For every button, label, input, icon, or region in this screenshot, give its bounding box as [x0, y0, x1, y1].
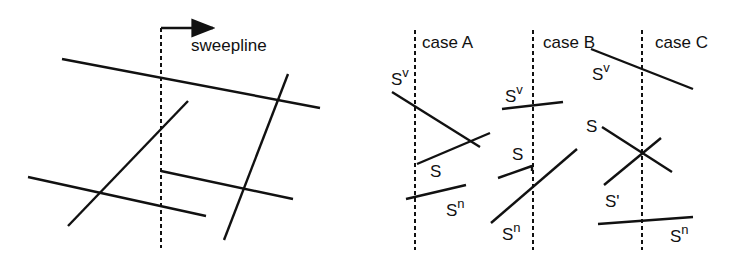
- sweepline-label: sweepline: [191, 37, 267, 54]
- segment-4: [28, 177, 206, 216]
- sweepline-overview-panel: [28, 28, 320, 248]
- case-c-sv-label: Sv: [592, 62, 610, 83]
- case-c-sn-label: Sn: [670, 224, 689, 245]
- case-b-segment-sn: [491, 149, 577, 223]
- case-c-s-label: S: [586, 118, 597, 135]
- case-b-sn-label: Sn: [502, 222, 521, 243]
- case-a-segment-sv: [392, 92, 480, 147]
- case-c-segment-s-prime: [604, 138, 661, 185]
- case-b-segment-s: [498, 166, 532, 178]
- case-b-sv-label: Sv: [505, 84, 523, 105]
- case-c-s-prime-label: S': [605, 193, 620, 210]
- case-a-sv-label: Sv: [391, 67, 409, 88]
- case-a-segment-s: [417, 133, 490, 164]
- case-c-segment-sn: [598, 217, 693, 224]
- case-b-s-label: S: [512, 146, 523, 163]
- segment-5: [161, 171, 293, 199]
- segment-1: [62, 59, 320, 108]
- case-a-s-label: S: [430, 163, 441, 180]
- case-c-title: case C: [655, 34, 708, 51]
- case-c-segment-s: [602, 127, 672, 172]
- sweepline-cases-panel: [392, 30, 693, 250]
- case-a-sn-label: Sn: [446, 198, 465, 219]
- diagram-canvas: [0, 0, 742, 265]
- segment-2: [224, 74, 288, 240]
- case-b-title: case B: [543, 34, 595, 51]
- case-a-title: case A: [422, 34, 473, 51]
